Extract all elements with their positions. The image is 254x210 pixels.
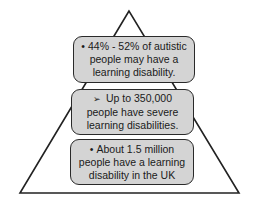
level-text-top: •44% - 52% of autistic people may have a… [80,40,188,79]
bullet-icon: • [90,143,94,155]
level-top-text: 44% - 52% of autistic people may have a … [88,40,187,78]
arrow-bullet-icon: ➢ [93,94,101,104]
bullet-icon: • [81,40,85,52]
level-text-middle: ➢Up to 350,000 people have severe learni… [78,92,187,132]
pyramid-diagram: •44% - 52% of autistic people may have a… [0,0,254,210]
pyramid-level-middle: ➢Up to 350,000 people have severe learni… [71,89,194,135]
pyramid-level-top: •44% - 52% of autistic people may have a… [73,36,195,83]
level-bottom-text: About 1.5 million people have a learning… [79,143,185,181]
level-text-bottom: •About 1.5 million people have a learnin… [77,143,187,182]
pyramid-level-bottom: •About 1.5 million people have a learnin… [70,139,194,185]
